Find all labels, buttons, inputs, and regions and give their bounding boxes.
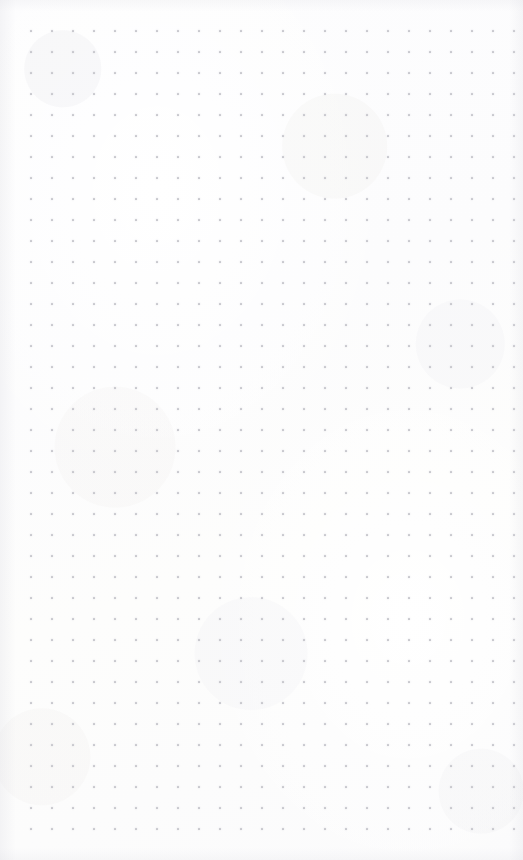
notebook-page xyxy=(0,0,523,860)
page-edge-vignette xyxy=(0,0,523,860)
